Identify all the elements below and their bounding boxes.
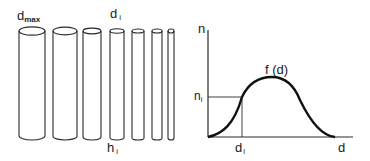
label-hi: hi	[107, 140, 118, 156]
ni-label: ni	[194, 89, 203, 104]
cylinder-group	[19, 27, 174, 140]
label-dmax: dmax	[17, 8, 41, 24]
distribution-curve	[208, 77, 335, 137]
cylinder	[19, 27, 45, 140]
cylinder	[83, 28, 101, 140]
diagram-canvas: dmax di hi n f (d) ni di d	[0, 0, 370, 161]
x-axis-label: d	[338, 140, 345, 155]
y-axis-label: n	[198, 21, 205, 36]
cylinder	[110, 29, 124, 140]
cylinder	[132, 29, 144, 140]
chart	[208, 30, 353, 137]
cylinder	[53, 27, 77, 140]
curve-label: f (d)	[265, 62, 288, 77]
cylinder	[152, 29, 162, 140]
label-di-top: di	[110, 6, 121, 22]
di-label: di	[235, 140, 245, 156]
cylinder	[168, 29, 174, 140]
